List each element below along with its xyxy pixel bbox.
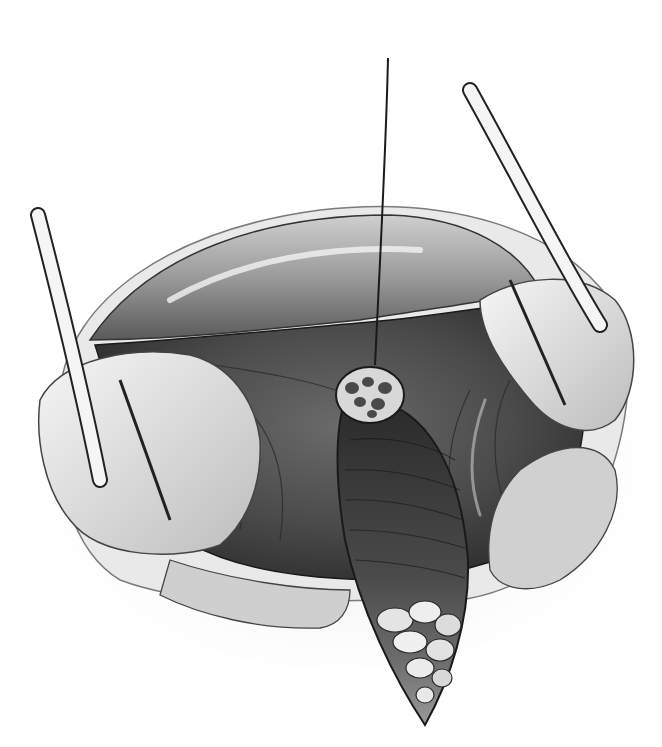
surgical-illustration <box>0 0 662 747</box>
illustration <box>0 0 662 747</box>
lesion <box>336 367 404 423</box>
